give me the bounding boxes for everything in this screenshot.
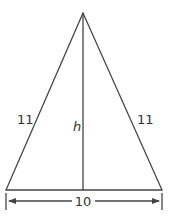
- triangle-outline: [6, 13, 162, 190]
- right-side-label: 11: [137, 112, 154, 127]
- left-side-label: 11: [17, 112, 34, 127]
- arrow-left-icon: [8, 198, 16, 204]
- arrow-right-icon: [152, 198, 160, 204]
- base-label: 10: [75, 194, 92, 209]
- height-label: h: [73, 119, 81, 134]
- triangle-diagram: 11 11 h 10: [0, 0, 185, 219]
